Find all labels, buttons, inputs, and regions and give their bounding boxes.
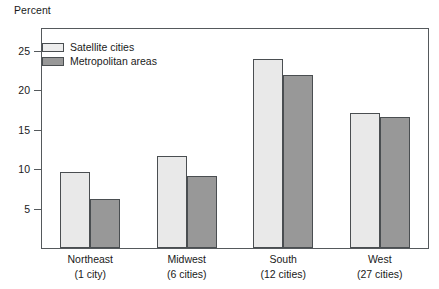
x-axis-label: West(27 cities) — [332, 252, 429, 282]
x-axis-sublabel: (1 city) — [42, 267, 139, 282]
bar-west-satellite-cities — [350, 113, 380, 248]
y-axis-tick-label: 5 — [24, 203, 30, 216]
y-axis-tick: 5 — [34, 209, 41, 210]
chart-legend: Satellite citiesMetropolitan areas — [42, 41, 157, 69]
y-axis-tick: 10 — [34, 169, 41, 170]
x-axis-category: West — [332, 252, 429, 267]
bar-south-satellite-cities — [253, 59, 283, 248]
legend-item: Metropolitan areas — [42, 55, 157, 67]
bar-group — [332, 29, 429, 248]
y-axis-tick-label: 10 — [18, 163, 30, 176]
bar-midwest-metropolitan-areas — [187, 176, 217, 248]
y-axis-tick: 15 — [34, 130, 41, 131]
bar-northeast-satellite-cities — [60, 172, 90, 248]
x-axis-category: South — [235, 252, 332, 267]
y-axis-tick-label: 20 — [18, 84, 30, 97]
y-axis-tick-label: 25 — [18, 45, 30, 58]
legend-item: Satellite cities — [42, 41, 157, 53]
bar-chart: Percent 510152025 Satellite citiesMetrop… — [0, 0, 439, 289]
y-axis-tick: 20 — [34, 90, 41, 91]
x-axis-sublabel: (27 cities) — [332, 267, 429, 282]
bar-midwest-satellite-cities — [157, 156, 187, 248]
bar-group — [235, 29, 332, 248]
x-axis-label: Northeast(1 city) — [42, 252, 139, 282]
legend-swatch-icon — [42, 57, 64, 66]
x-axis-sublabel: (6 cities) — [139, 267, 236, 282]
x-axis-labels: Northeast(1 city)Midwest(6 cities)South(… — [42, 252, 428, 288]
y-axis-caption: Percent — [14, 4, 51, 16]
legend-label: Satellite cities — [70, 41, 134, 53]
bar-south-metropolitan-areas — [283, 75, 313, 248]
y-axis-tick: 25 — [34, 51, 41, 52]
bar-northeast-metropolitan-areas — [90, 199, 120, 248]
legend-swatch-icon — [42, 43, 64, 52]
x-axis-label: South(12 cities) — [235, 252, 332, 282]
x-axis-label: Midwest(6 cities) — [139, 252, 236, 282]
y-axis-tick-label: 15 — [18, 124, 30, 137]
x-axis-sublabel: (12 cities) — [235, 267, 332, 282]
legend-label: Metropolitan areas — [70, 55, 157, 67]
x-axis-category: Midwest — [139, 252, 236, 267]
bar-west-metropolitan-areas — [380, 117, 410, 248]
x-axis-category: Northeast — [42, 252, 139, 267]
